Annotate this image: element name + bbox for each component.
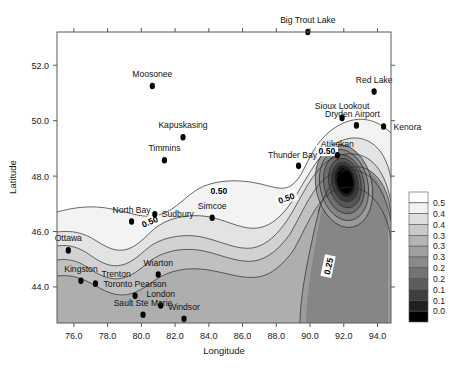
colorbar-tick-label: 0.4 <box>433 209 445 219</box>
station-label: North Bay <box>112 205 151 215</box>
station-dot[interactable] <box>181 316 186 323</box>
colorbar-tick-label: 0.5 <box>433 198 445 208</box>
x-tick-label: 90.0 <box>301 331 319 341</box>
colorbar-tick-label: 0.1 <box>433 285 445 295</box>
colorbar-swatch <box>409 268 428 279</box>
station-label: Windsor <box>168 302 200 312</box>
station-dot[interactable] <box>381 123 386 130</box>
contour-chart-figure: 0.500.500.500.500.25 Big Trout LakeMooso… <box>0 0 463 372</box>
x-tick-label: 94.0 <box>369 331 387 341</box>
colorbar-swatch <box>409 225 428 236</box>
x-tick-label: 84.0 <box>200 331 218 341</box>
station-label: Dryden Airport <box>325 109 381 119</box>
station-label: Wiarton <box>143 258 173 268</box>
x-tick-label: 88.0 <box>268 331 286 341</box>
colorbar-tick-label: 0.3 <box>433 231 445 241</box>
station-label: Timmins <box>148 143 180 153</box>
colorbar-swatch <box>409 203 428 214</box>
colorbar-tick-label: 0.1 <box>433 296 445 306</box>
station-dot[interactable] <box>129 218 134 225</box>
colorbar-swatch <box>409 311 428 322</box>
colorbar-swatch <box>409 257 428 268</box>
x-tick-label: 76.0 <box>65 331 83 341</box>
colorbar-tick-label: 0.3 <box>433 241 445 251</box>
colorbar-tick-label: 0.3 <box>433 252 445 262</box>
colorbar-swatch <box>409 279 428 290</box>
y-tick-label: 46.0 <box>31 227 49 237</box>
y-tick-label: 52.0 <box>31 61 49 71</box>
colorbar-swatch <box>409 290 428 301</box>
station-dot[interactable] <box>66 247 71 254</box>
colorbar-swatch <box>409 192 428 203</box>
x-tick-label: 92.0 <box>335 331 353 341</box>
station-label: Kingston <box>64 264 98 274</box>
colorbar-swatch <box>409 300 428 311</box>
station-label: Red Lake <box>356 75 393 85</box>
station-label: Kenora <box>394 122 422 132</box>
y-tick-label: 50.0 <box>31 116 49 126</box>
station-dot[interactable] <box>354 122 359 129</box>
station-dot[interactable] <box>180 134 185 141</box>
colorbar: 0.50.40.40.30.30.30.20.20.10.10.0 <box>409 192 445 322</box>
y-axis-title: Latitude <box>7 160 18 194</box>
station-label: Sault Ste Marie <box>114 298 173 308</box>
colorbar-tick-label: 0.4 <box>433 220 445 230</box>
station-dot[interactable] <box>93 280 98 287</box>
colorbar-swatch <box>409 214 428 225</box>
colorbar-swatch <box>409 235 428 246</box>
colorbar-tick-label: 0.2 <box>433 274 445 284</box>
x-tick-label: 80.0 <box>133 331 151 341</box>
station-label: Moosonee <box>132 69 172 79</box>
y-tick-label: 48.0 <box>31 172 49 182</box>
y-tick-label: 44.0 <box>31 282 49 292</box>
station-dot[interactable] <box>140 311 145 318</box>
x-axis-title: Longitude <box>203 345 245 356</box>
contour-value-label: 0.50 <box>208 185 230 196</box>
contour-label-text: 0.50 <box>211 186 228 196</box>
station-dot[interactable] <box>150 83 155 90</box>
station-dot[interactable] <box>210 214 215 221</box>
station-dot[interactable] <box>162 157 167 164</box>
station-dot[interactable] <box>335 152 340 159</box>
x-tick-label: 82.0 <box>166 331 184 341</box>
station-label: Atikokan <box>321 139 354 149</box>
station-label: Simcoe <box>198 201 227 211</box>
station-label: Sudbury <box>162 209 195 219</box>
x-tick-label: 86.0 <box>234 331 252 341</box>
station-label: Thunder Bay <box>268 150 318 160</box>
x-tick-label: 78.0 <box>99 331 117 341</box>
station-dot[interactable] <box>372 88 377 95</box>
station-label: Big Trout Lake <box>280 15 336 25</box>
station-dot[interactable] <box>78 278 83 285</box>
chart-canvas: 0.500.500.500.500.25 Big Trout LakeMooso… <box>0 0 463 372</box>
station-label: Trenton <box>101 269 131 279</box>
station-label: Kapuskasing <box>158 120 207 130</box>
colorbar-tick-label: 0.2 <box>433 263 445 273</box>
station-dot[interactable] <box>156 271 161 278</box>
station-label: Ottawa <box>55 233 82 243</box>
station-label: Toronto Pearson <box>104 279 167 289</box>
station-dot[interactable] <box>296 163 301 170</box>
station-dot[interactable] <box>152 211 157 218</box>
colorbar-swatch <box>409 246 428 257</box>
colorbar-tick-label: 0.0 <box>433 306 445 316</box>
